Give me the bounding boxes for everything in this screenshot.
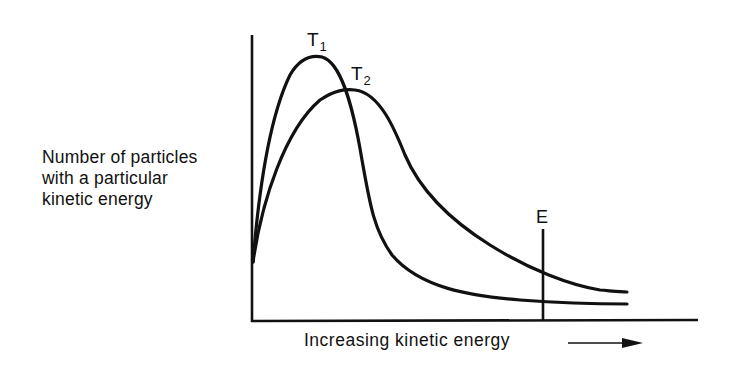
curve-t1: [253, 56, 627, 304]
t2-label: T2: [351, 63, 371, 88]
t1-label: T1: [307, 29, 327, 54]
x-arrow-icon: [622, 338, 643, 348]
x-axis-label: Increasing kinetic energy: [304, 330, 510, 351]
curve-t2: [253, 90, 627, 292]
chart-canvas: T1 T2 E: [0, 0, 733, 374]
e-label: E: [536, 207, 548, 227]
x-axis: [251, 320, 698, 321]
